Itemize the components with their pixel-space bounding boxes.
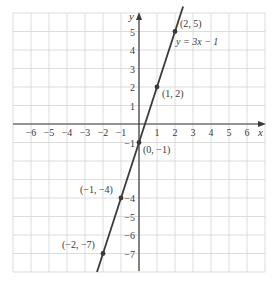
- y-tick-label: 5: [130, 27, 135, 38]
- x-tick-label: −3: [80, 127, 91, 138]
- y-tick-label: −7: [124, 249, 135, 260]
- y-tick-label: −6: [124, 230, 135, 241]
- x-tick-label: −1: [116, 127, 127, 138]
- series-line: [97, 7, 183, 272]
- line-graph: x y −6−5−4−3−2−1123456 54321−1−4−5−6−7 (…: [0, 0, 276, 283]
- annotation-point-0-m1: (0, −1): [143, 144, 170, 156]
- x-tick-label: 1: [155, 127, 160, 138]
- y-tick-label: −1: [124, 138, 135, 149]
- annotation-point-m2-m7: (−2, −7): [62, 239, 95, 251]
- y-tick-label: 3: [130, 64, 135, 75]
- data-point-dot-icon: [101, 251, 106, 256]
- y-tick-label: −4: [124, 193, 135, 204]
- y-tick-labels: 54321−1−4−5−6−7: [124, 27, 135, 260]
- y-tick-label: 4: [130, 45, 135, 56]
- data-point-dot-icon: [173, 29, 178, 34]
- x-tick-label: 5: [227, 127, 232, 138]
- annotation-point-1-2: (1, 2): [162, 88, 184, 100]
- x-tick-label: 4: [209, 127, 214, 138]
- x-tick-label: −4: [62, 127, 73, 138]
- annotation-point-2-5: (2, 5): [180, 18, 202, 30]
- x-tick-label: −2: [98, 127, 109, 138]
- x-tick-labels: −6−5−4−3−2−1123456: [26, 127, 250, 138]
- y-tick-label: 1: [130, 101, 135, 112]
- data-point-dot-icon: [119, 196, 124, 201]
- data-point-dot-icon: [137, 140, 142, 145]
- x-tick-label: −6: [26, 127, 37, 138]
- x-tick-label: 6: [245, 127, 250, 138]
- x-tick-label: 2: [173, 127, 178, 138]
- line-y-equals-3x-minus-1: [97, 7, 183, 272]
- x-tick-label: 3: [191, 127, 196, 138]
- x-axis-label: x: [257, 126, 263, 138]
- y-tick-label: −5: [124, 212, 135, 223]
- y-axis-label: y: [128, 10, 134, 22]
- annotation-equation: y = 3x − 1: [175, 36, 218, 47]
- x-tick-label: −5: [44, 127, 55, 138]
- data-point-dot-icon: [155, 85, 160, 90]
- y-tick-label: 2: [130, 82, 135, 93]
- annotation-point-m1-m4: (−1, −4): [80, 184, 113, 196]
